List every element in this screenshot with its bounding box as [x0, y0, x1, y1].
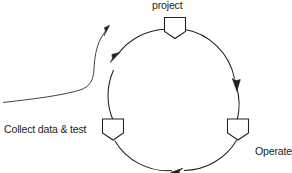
cycle-arc-left-ascend-lower	[108, 70, 114, 121]
entry-arrow-line	[3, 29, 107, 103]
cycle-diagram: project Collect data & test Operate proj…	[0, 0, 292, 173]
cycle-arc-bottom-to-left	[115, 140, 172, 170]
cycle-ring	[108, 29, 239, 171]
cycle-arc-right-to-bottom	[184, 140, 237, 170]
node-right-label: Operate project	[255, 118, 292, 173]
node-left-shape[interactable]	[103, 119, 124, 140]
arrow-right-descending-icon	[232, 78, 240, 91]
arrow-bottom-icon	[171, 168, 183, 173]
arrow-left-ascending-icon	[110, 52, 119, 62]
node-top-shape[interactable]	[165, 18, 186, 39]
cycle-arc-left-to-top	[118, 29, 166, 54]
entry-arrow-head-icon	[104, 25, 110, 36]
cycle-diagram-canvas	[0, 0, 292, 173]
cycle-arc-top-to-right	[184, 29, 235, 78]
node-top-label: project	[152, 0, 182, 13]
node-left-label: Collect data & test	[4, 123, 86, 137]
node-right-shape[interactable]	[228, 119, 249, 140]
cycle-arc-right-descend	[236, 87, 239, 121]
node-right-label-line1: Operate	[255, 145, 292, 159]
